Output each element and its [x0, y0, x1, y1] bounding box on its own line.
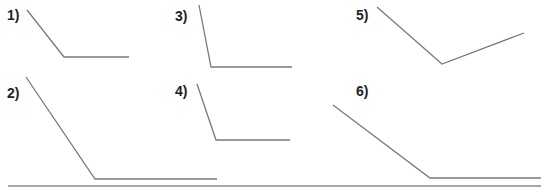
angle-label-5: 5) — [356, 8, 368, 22]
angle-6 — [333, 105, 541, 178]
angle-label-2: 2) — [7, 86, 19, 100]
angle-1 — [27, 10, 129, 57]
angles-figure: 1) 2) 3) 4) 5) 6) — [0, 0, 544, 193]
angle-label-6: 6) — [356, 84, 368, 98]
angles-drawing — [0, 0, 544, 193]
angle-label-3: 3) — [175, 9, 187, 23]
angle-4 — [197, 84, 290, 140]
angle-label-1: 1) — [7, 8, 19, 22]
angle-5 — [377, 7, 524, 64]
angle-label-4: 4) — [175, 84, 187, 98]
angle-3 — [199, 5, 292, 67]
angle-2 — [26, 77, 217, 179]
